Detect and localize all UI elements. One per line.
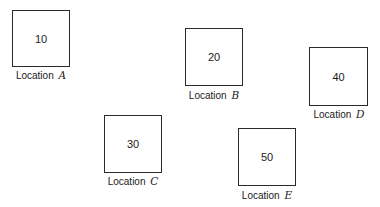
location-b-value: 20 [208, 51, 220, 63]
location-c-box: 30 [104, 115, 162, 173]
location-a-value: 10 [35, 33, 47, 45]
location-c-label: Location C [108, 175, 159, 187]
location-d-box: 40 [309, 47, 368, 106]
location-e-box: 50 [238, 128, 296, 186]
location-a-box: 10 [12, 10, 70, 67]
location-a-label: Location A [16, 69, 66, 81]
location-d-value: 40 [332, 71, 344, 83]
location-b-label: Location B [189, 89, 239, 101]
location-c-value: 30 [127, 138, 139, 150]
location-b-box: 20 [185, 28, 243, 86]
location-d-label: Location D [313, 108, 364, 120]
location-e-value: 50 [261, 151, 273, 163]
location-e-label: Location E [242, 189, 292, 201]
